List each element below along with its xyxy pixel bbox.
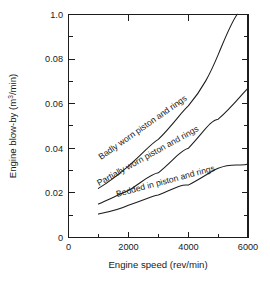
x-tick-label-0: 0 [66,242,71,252]
x-axis-title: Engine speed (rev/min) [108,259,207,270]
y-axis-title-prefix: Engine blow-by (m [7,99,18,178]
curve-label-badly-worn: Badly worn piston and rings [96,93,188,162]
y-axis-title-suffix: /min) [7,74,18,95]
y-tick-label-008: 0.08 [45,54,63,64]
y-tick-label-004: 0.04 [45,144,63,154]
curve-label-badly-worn-group: Badly worn piston and rings [96,93,188,162]
y-tick-label-0: 0 [58,233,63,243]
y-axis-title-group: Engine blow-by (m3/min) [7,74,18,178]
y-tick-label-top: 1.0 [50,10,63,20]
curve-badly-worn [98,14,237,188]
y-tick-label-006: 0.06 [45,99,63,109]
y-axis-minor-ticks [69,37,73,215]
x-tick-label-2000: 2000 [118,242,138,252]
x-tick-label-4000: 4000 [178,242,198,252]
x-axis-minor-ticks [99,234,219,238]
x-tick-label-6000: 6000 [238,242,258,252]
top-spine-ticks [129,15,189,21]
y-axis-title: Engine blow-by (m3/min) [7,74,18,178]
y-tick-label-002: 0.02 [45,188,63,198]
blow-by-vs-speed-chart: 0 0.02 0.04 0.06 0.08 1.0 0 2000 4000 60… [0,0,270,283]
right-spine-ticks [242,37,248,238]
chart-figure: 0 0.02 0.04 0.06 0.08 1.0 0 2000 4000 60… [0,0,270,283]
